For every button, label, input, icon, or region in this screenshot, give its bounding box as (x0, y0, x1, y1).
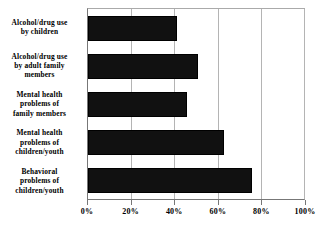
gridline (304, 9, 305, 199)
x-tick-label: 40% (166, 207, 183, 216)
bar (88, 16, 177, 41)
x-axis-tick-labels: 0%20%40%60%80%100% (0, 207, 328, 223)
x-tick (305, 200, 306, 205)
x-tick-label: 20% (122, 207, 139, 216)
x-tick (87, 200, 88, 205)
category-label: Behavioralproblems ofchildren/youth (0, 162, 83, 200)
x-tick-label: 80% (253, 207, 270, 216)
category-label-text: Behavioralproblems ofchildren/youth (0, 167, 79, 195)
x-tick-label: 60% (209, 207, 226, 216)
plot-area (87, 8, 305, 200)
bar (88, 130, 224, 155)
x-axis-ticks (87, 200, 305, 206)
x-tick (218, 200, 219, 205)
bars-layer (88, 9, 304, 199)
x-tick (131, 200, 132, 205)
bar (88, 168, 252, 193)
bar (88, 54, 198, 79)
category-label: Mental healthproblems ofchildren/youth (0, 123, 83, 161)
category-label-text: Alcohol/drug useby adult familymembers (0, 52, 79, 80)
bar-slot (88, 85, 304, 123)
bar-slot (88, 161, 304, 199)
x-tick-label: 100% (295, 207, 316, 216)
x-tick-label: 0% (81, 207, 93, 216)
category-label: Mental healthproblems offamily members (0, 85, 83, 123)
x-tick (261, 200, 262, 205)
category-label: Alcohol/drug useby children (0, 8, 83, 46)
bar-slot (88, 123, 304, 161)
category-axis-labels: Alcohol/drug useby childrenAlcohol/drug … (0, 8, 83, 200)
category-label-text: Mental healthproblems offamily members (0, 90, 79, 118)
x-tick (174, 200, 175, 205)
bar (88, 92, 187, 117)
category-label-text: Mental healthproblems ofchildren/youth (0, 128, 79, 156)
category-label: Alcohol/drug useby adult familymembers (0, 46, 83, 84)
category-label-text: Alcohol/drug useby children (0, 18, 79, 37)
bar-chart: Alcohol/drug useby childrenAlcohol/drug … (0, 0, 328, 234)
bar-slot (88, 9, 304, 47)
bar-slot (88, 47, 304, 85)
